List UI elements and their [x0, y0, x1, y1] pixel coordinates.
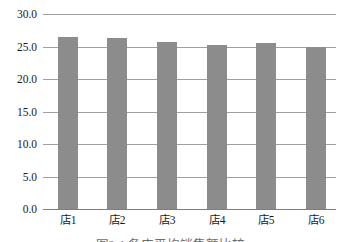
y-axis-tick-label: 20.0 [3, 73, 37, 85]
y-axis-tick-label: 25.0 [3, 41, 37, 53]
x-axis-category-label: 店3 [142, 214, 192, 226]
bar-店5 [256, 43, 276, 209]
gridline [43, 79, 336, 80]
bar-店3 [157, 42, 177, 209]
x-axis-category-label: 店2 [92, 214, 142, 226]
y-axis-tick-label: 30.0 [3, 8, 37, 20]
bar-店1 [58, 37, 78, 209]
x-axis-line [43, 209, 336, 210]
y-axis-tick-label: 5.0 [3, 171, 37, 183]
plot-area: 30.025.020.015.010.05.00.0 店1店2店3店4店5店6 [0, 0, 341, 242]
y-axis-tick-label: 15.0 [3, 106, 37, 118]
x-axis-category-label: 店4 [192, 214, 242, 226]
figure-caption: 图2-1 各店平均销售额比较 [0, 234, 341, 242]
gridline [43, 14, 336, 15]
y-axis-tick-label: 0.0 [3, 203, 37, 215]
y-axis-tick-label: 10.0 [3, 138, 37, 150]
bar-店2 [107, 38, 127, 209]
x-axis-category-label: 店5 [241, 214, 291, 226]
gridline [43, 144, 336, 145]
gridline [43, 177, 336, 178]
x-axis-category-label: 店6 [291, 214, 341, 226]
gridline [43, 47, 336, 48]
bar-店4 [207, 45, 227, 209]
gridline [43, 112, 336, 113]
bar-chart-figure: 30.025.020.015.010.05.00.0 店1店2店3店4店5店6 … [0, 0, 341, 242]
x-axis-category-label: 店1 [43, 214, 93, 226]
bar-店6 [306, 47, 326, 209]
